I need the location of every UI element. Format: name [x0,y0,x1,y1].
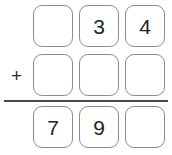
digit-cell-ones-addend-2[interactable] [125,54,165,96]
sum-row: 7 9 [0,104,172,150]
digit-cell-tens-addend-2[interactable] [79,54,119,96]
digit-cell-tens-sum[interactable]: 9 [79,106,119,148]
digit-cell-ones-addend-1[interactable]: 4 [125,5,165,47]
addend-row-2: + [0,52,172,98]
digit-cells-row-1: 3 4 [33,5,172,47]
sum-divider-line [4,100,168,102]
digit-cell-hundreds-sum[interactable]: 7 [33,106,73,148]
digit-cells-row-2 [33,54,172,96]
digit-cells-sum-row: 7 9 [33,106,172,148]
digit-cell-tens-addend-1[interactable]: 3 [79,5,119,47]
addend-row-1: 3 4 [0,3,172,49]
plus-operator-icon: + [0,66,33,85]
digit-cell-ones-sum[interactable] [125,106,165,148]
addition-worksheet: 3 4 + 7 9 [0,0,172,155]
digit-cell-hundreds-addend-2[interactable] [33,54,73,96]
digit-cell-hundreds-addend-1[interactable] [33,5,73,47]
